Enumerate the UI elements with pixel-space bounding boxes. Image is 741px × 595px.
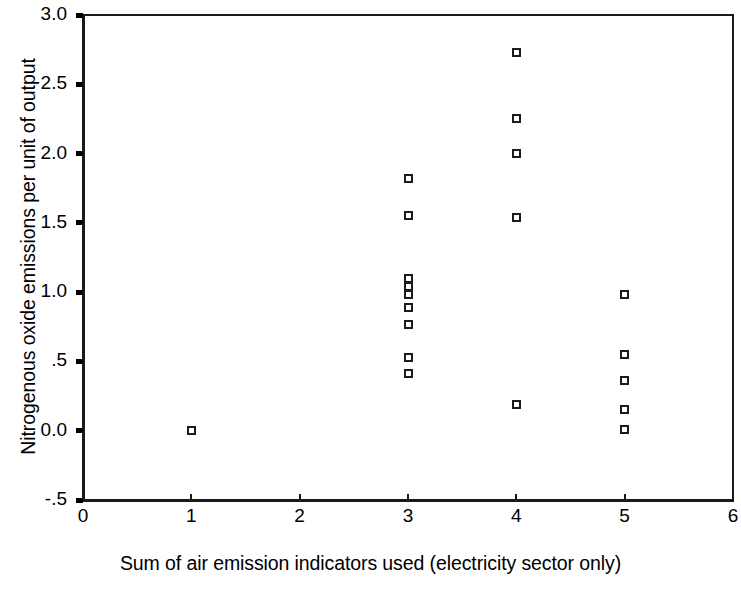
y-tick-mark bbox=[76, 290, 83, 295]
data-point-marker bbox=[404, 320, 413, 329]
data-point-marker bbox=[620, 290, 629, 299]
scatter-plot-figure: Nitrogenous oxide emissions per unit of … bbox=[0, 0, 741, 595]
data-point-marker bbox=[620, 425, 629, 434]
data-point-marker bbox=[187, 426, 196, 435]
y-tick-mark bbox=[76, 13, 83, 18]
data-point-marker bbox=[404, 369, 413, 378]
y-tick-label: 3.0 bbox=[7, 3, 67, 25]
y-tick-label: 1.5 bbox=[7, 211, 67, 233]
x-tick-label: 5 bbox=[605, 505, 645, 527]
data-point-marker bbox=[404, 211, 413, 220]
plot-area bbox=[83, 15, 733, 500]
x-tick-label: 1 bbox=[171, 505, 211, 527]
y-tick-label: 1.0 bbox=[7, 280, 67, 302]
data-point-marker bbox=[512, 114, 521, 123]
data-point-marker bbox=[620, 376, 629, 385]
y-tick-label: .5 bbox=[7, 349, 67, 371]
data-point-marker bbox=[620, 405, 629, 414]
data-point-marker bbox=[512, 400, 521, 409]
data-point-marker bbox=[404, 353, 413, 362]
x-axis-label: Sum of air emission indicators used (ele… bbox=[0, 552, 741, 575]
y-tick-mark bbox=[76, 359, 83, 364]
data-point-marker bbox=[404, 303, 413, 312]
x-tick-label: 0 bbox=[63, 505, 103, 527]
y-tick-mark bbox=[76, 82, 83, 87]
y-tick-mark bbox=[76, 151, 83, 156]
data-point-marker bbox=[512, 213, 521, 222]
data-point-marker bbox=[620, 350, 629, 359]
y-tick-label: 0.0 bbox=[7, 419, 67, 441]
data-point-marker bbox=[512, 48, 521, 57]
x-tick-label: 4 bbox=[496, 505, 536, 527]
data-point-marker bbox=[404, 290, 413, 299]
x-tick-label: 2 bbox=[280, 505, 320, 527]
y-tick-label: -.5 bbox=[7, 488, 67, 510]
x-tick-label: 3 bbox=[388, 505, 428, 527]
data-point-marker bbox=[512, 149, 521, 158]
y-tick-mark bbox=[76, 220, 83, 225]
y-tick-label: 2.5 bbox=[7, 72, 67, 94]
y-tick-mark bbox=[76, 428, 83, 433]
data-point-marker bbox=[404, 174, 413, 183]
x-tick-label: 6 bbox=[713, 505, 741, 527]
y-tick-label: 2.0 bbox=[7, 142, 67, 164]
